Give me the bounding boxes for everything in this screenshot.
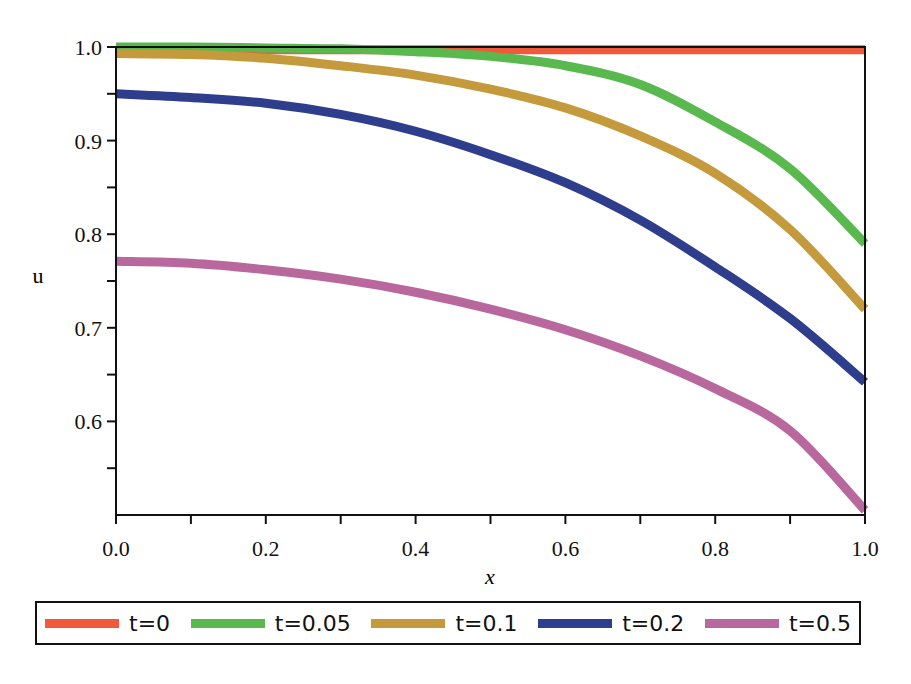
y-tick-label: 0.6 bbox=[75, 409, 103, 434]
x-tick-label: 0.8 bbox=[701, 536, 729, 561]
x-axis-label: x bbox=[484, 564, 495, 589]
x-tick-label: 1.0 bbox=[851, 536, 879, 561]
legend-label: t=0.05 bbox=[275, 611, 351, 636]
series-line-2 bbox=[116, 54, 865, 310]
series-line-4 bbox=[116, 261, 865, 510]
legend-item-t05: t=0.5 bbox=[705, 611, 851, 636]
legend-swatch bbox=[705, 619, 779, 628]
line-chart: 0.60.70.80.91.00.00.20.40.60.81.0 x u bbox=[0, 0, 911, 600]
chart-legend: t=0 t=0.05 t=0.1 t=0.2 t=0.5 bbox=[35, 601, 861, 645]
y-tick-label: 0.7 bbox=[75, 316, 103, 341]
y-tick-label: 0.8 bbox=[75, 222, 103, 247]
legend-swatch bbox=[45, 619, 119, 628]
chart-curves bbox=[116, 47, 865, 510]
series-line-3 bbox=[116, 94, 865, 382]
y-tick-label: 1.0 bbox=[75, 35, 103, 60]
legend-swatch bbox=[191, 619, 265, 628]
legend-swatch bbox=[371, 619, 445, 628]
legend-swatch bbox=[538, 619, 612, 628]
legend-label: t=0.2 bbox=[622, 611, 684, 636]
x-tick-label: 0.2 bbox=[252, 536, 280, 561]
series-line-1 bbox=[116, 47, 865, 244]
y-tick-label: 0.9 bbox=[75, 129, 103, 154]
legend-label: t=0.1 bbox=[455, 611, 517, 636]
y-axis-label: u bbox=[33, 263, 44, 288]
legend-label: t=0 bbox=[129, 611, 170, 636]
legend-item-t02: t=0.2 bbox=[538, 611, 684, 636]
legend-item-t005: t=0.05 bbox=[191, 611, 351, 636]
legend-label: t=0.5 bbox=[789, 611, 851, 636]
legend-item-t01: t=0.1 bbox=[371, 611, 517, 636]
legend-item-t0: t=0 bbox=[45, 611, 170, 636]
x-tick-label: 0.6 bbox=[552, 536, 580, 561]
x-tick-label: 0.0 bbox=[102, 536, 130, 561]
x-tick-label: 0.4 bbox=[402, 536, 430, 561]
